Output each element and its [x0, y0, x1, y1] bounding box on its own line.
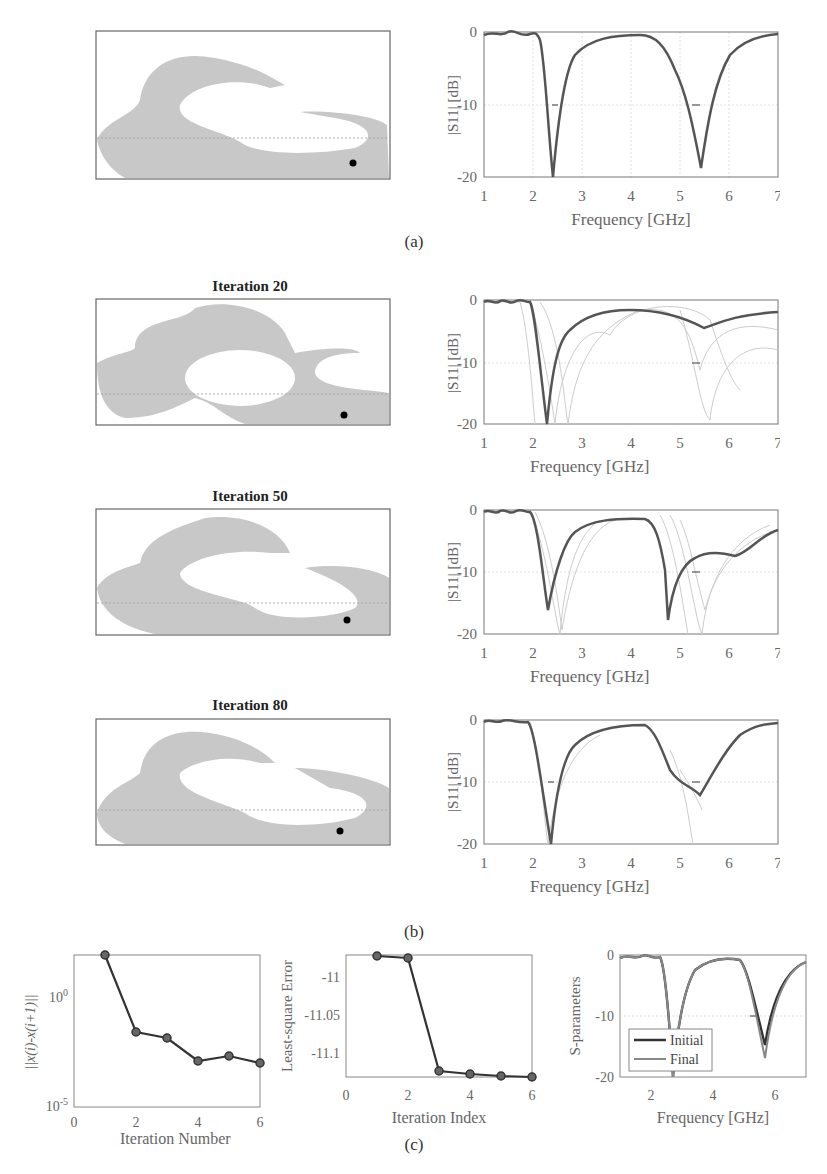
xtick: 4 [710, 1088, 717, 1103]
xtick: 7 [774, 645, 780, 661]
ytick: -20 [457, 836, 477, 852]
legend-item-initial: Initial [670, 1033, 704, 1048]
xtick: 6 [725, 645, 733, 661]
xtick: 6 [529, 1088, 536, 1103]
x-axis-label: Frequency [GHz] [571, 210, 690, 229]
xtick: 7 [774, 435, 780, 451]
xtick: 4 [627, 435, 635, 451]
x-axis-label: Frequency [GHz] [530, 457, 649, 477]
ytick: -11 [322, 970, 340, 985]
xtick: 2 [405, 1088, 412, 1103]
ytick: -20 [595, 1070, 614, 1085]
xtick: 5 [676, 435, 684, 451]
y-axis-label: |S11| [dB] [445, 752, 461, 812]
xtick: 7 [774, 855, 780, 871]
xtick: 1 [480, 188, 488, 204]
xtick: 6 [257, 1115, 264, 1130]
grid [484, 32, 778, 177]
xtick: 2 [529, 435, 537, 451]
s11-chart-it80: 0 -10 -20 1 2 3 4 5 6 7 |S11| [dB] [440, 690, 780, 879]
y-axis-label: ||x(i)-x(i+1)|| [23, 994, 39, 1069]
xtick: 1 [480, 435, 488, 451]
caption-a: (a) [384, 232, 444, 252]
convergence-chart: 100 10-5 0 2 4 6 ||x(i)-x(i+1)|| [0, 940, 275, 1134]
ytick: 0 [470, 502, 478, 518]
feed-point-icon [337, 828, 344, 835]
legend-item-final: Final [670, 1052, 699, 1067]
feed-point-icon [344, 617, 351, 624]
ytick: 100 [49, 987, 68, 1005]
ytick: 0 [470, 712, 478, 728]
ytick: 0 [470, 292, 478, 308]
xtick: 6 [772, 1088, 779, 1103]
xtick: 4 [467, 1088, 474, 1103]
x-axis-label: Frequency [GHz] [657, 1109, 769, 1127]
xtick: 2 [133, 1115, 140, 1130]
ytick: 0 [607, 948, 614, 963]
xtick: 2 [529, 645, 537, 661]
xtick: 5 [676, 645, 684, 661]
xtick: 2 [648, 1088, 655, 1103]
xtick: 6 [725, 188, 733, 204]
xtick: 5 [676, 188, 684, 204]
s-parameters-comparison-chart: Initial Final 0 -10 -20 2 4 6 Frequency … [560, 940, 827, 1134]
x-axis-label: Frequency [GHz] [530, 667, 649, 687]
ytick: 0 [470, 24, 478, 40]
xtick: 0 [343, 1088, 350, 1103]
caption-b: (b) [384, 922, 444, 942]
iteration-title: Iteration 50 [80, 488, 420, 505]
legend: Initial Final [629, 1029, 712, 1071]
xtick: 3 [578, 188, 586, 204]
antenna-geometry-it80 [95, 718, 391, 850]
ytick: 10-5 [46, 1096, 68, 1114]
least-square-chart: -11 -11.05 -11.1 0 2 4 6 Iteration Index… [270, 940, 545, 1134]
xtick: 5 [676, 855, 684, 871]
caption-c: (c) [384, 1135, 444, 1155]
xtick: 3 [578, 645, 586, 661]
iteration-title: Iteration 80 [80, 697, 420, 714]
x-axis-label: Iteration Number [120, 1130, 231, 1148]
xtick: 4 [627, 855, 635, 871]
xtick: 4 [195, 1115, 202, 1130]
antenna-geometry-it50 [95, 508, 391, 640]
xtick: 1 [480, 645, 488, 661]
feed-point-icon [341, 412, 348, 419]
xtick: 3 [578, 855, 586, 871]
xtick: 4 [627, 188, 635, 204]
iteration-title: Iteration 20 [80, 278, 420, 295]
x-axis-label: Frequency [GHz] [530, 877, 649, 897]
ytick: -20 [457, 626, 477, 642]
antenna-geometry-it20 [95, 298, 391, 430]
y-axis-label: |S11| [dB] [445, 542, 461, 602]
xtick: 6 [725, 855, 733, 871]
y-axis-label: |S11| [dB] [445, 333, 461, 393]
antenna-geometry-initial [95, 30, 391, 184]
ytick: -10 [595, 1009, 614, 1024]
feed-point-icon [350, 160, 357, 167]
xtick: 2 [529, 188, 537, 204]
xtick: 2 [529, 855, 537, 871]
ytick: -20 [457, 169, 477, 185]
s11-chart-initial: 0 -10 -20 1 2 3 4 5 6 7 Frequency [GHz] … [440, 0, 780, 239]
y-axis-label: |S11| [dB] [445, 75, 461, 135]
ytick: -11.05 [304, 1008, 340, 1023]
xtick: 7 [774, 188, 780, 204]
y-axis-label: S-parameters [567, 976, 583, 1055]
x-axis-label: Iteration Index [392, 1109, 487, 1126]
xtick: 3 [578, 435, 586, 451]
s11-chart-it50: 0 -10 -20 1 2 3 4 5 6 7 |S11| [dB] [440, 480, 780, 669]
s11-chart-it20: 0 -10 -20 1 2 3 4 5 6 7 |S11| [dB] [440, 270, 780, 459]
xtick: 1 [480, 855, 488, 871]
ytick: -11.1 [311, 1046, 340, 1061]
y-axis-label: Least-square Error [279, 960, 295, 1072]
xtick: 0 [71, 1115, 78, 1130]
xtick: 4 [627, 645, 635, 661]
xtick: 6 [725, 435, 733, 451]
ytick: -20 [457, 416, 477, 432]
